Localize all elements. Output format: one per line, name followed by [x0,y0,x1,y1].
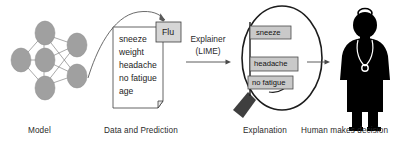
caption-human-makes-decision: Human makes decision [301,126,388,135]
bar-label-no-fatigue: no fatigue [252,78,285,87]
bar-label-sneeze: sneeze [256,28,281,37]
bar-label-headache: headache [254,59,287,68]
magnifier-handle [233,92,256,118]
explainer-label-line2: (LIME) [186,46,230,56]
caption-data-and-prediction: Data and Prediction [104,126,178,135]
lime-pipeline-figure: sneeze weight headache no fatigue age Fl… [0,0,405,146]
explainer-label-line1: Explainer [186,34,230,44]
network-node-hidden-2 [35,76,55,100]
feature-item-sneeze: sneeze [119,34,147,44]
network-node-output-0 [67,33,87,57]
feature-item-weight: weight [119,47,144,57]
caption-explanation: Explanation [243,126,287,135]
network-node-hidden-0 [35,21,55,45]
network-node-output-1 [67,64,87,88]
feature-item-age: age [119,86,133,96]
network-node-input-0 [11,48,31,72]
explainer-arrow [186,60,231,65]
caption-model: Model [28,126,51,135]
feature-item-headache: headache [119,60,157,70]
prediction-label-flu: Flu [162,27,174,37]
doctor-silhouette-icon [340,9,390,132]
network-node-hidden-1 [35,48,55,72]
feature-item-no-fatigue: no fatigue [119,73,157,83]
neural-network-icon [11,21,87,100]
diagram-vector-layer [0,0,405,146]
